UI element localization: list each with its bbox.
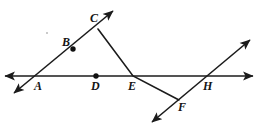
diagonal-line-FH: [152, 40, 250, 122]
point-dot-B: [70, 46, 75, 51]
point-label-F: F: [178, 101, 186, 113]
point-label-E: E: [128, 80, 136, 92]
segment-path-CEF: [98, 29, 179, 100]
point-dot-D: [93, 73, 98, 78]
point-label-D: D: [91, 80, 100, 92]
point-label-B: B: [62, 36, 70, 48]
geometry-figure: A B C D E F H: [0, 0, 261, 129]
point-label-H: H: [203, 80, 212, 92]
point-label-C: C: [90, 12, 98, 24]
geometry-canvas: [0, 0, 261, 129]
point-label-A: A: [34, 80, 42, 92]
artifact-speck: [46, 32, 48, 34]
